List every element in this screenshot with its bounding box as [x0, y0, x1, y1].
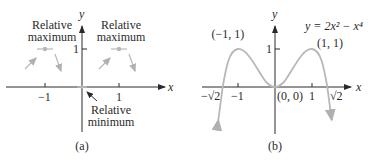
caption-b: (b)	[268, 139, 282, 153]
panel-b: x y −√2 −1 1 √2 1 (−1, 1) (1, 1) (0, 0) …	[201, 7, 363, 153]
figure: x y −1 1 1 Relative maximu	[0, 0, 371, 164]
y-tick-label-1: 1	[73, 42, 79, 56]
x-tick-label-neg1: −1	[231, 89, 244, 103]
y-axis-label: y	[271, 7, 278, 21]
x-tick-label-1: 1	[116, 90, 122, 104]
y-axis-label: y	[78, 7, 85, 21]
x-tick-label-neg1: −1	[38, 90, 51, 104]
point-label-origin: (0, 0)	[277, 89, 303, 103]
min-marker	[77, 85, 97, 101]
point-label-left-max: (−1, 1)	[212, 27, 245, 41]
x-axis-label: x	[167, 80, 174, 94]
annotation-left-max-line2: maximum	[28, 30, 77, 44]
left-max-marker	[25, 47, 61, 71]
annotation-right-max-line2: maximum	[97, 30, 146, 44]
right-max-marker	[99, 47, 135, 71]
annotation-min-line2: minimum	[88, 115, 135, 129]
x-axis-label: x	[355, 80, 362, 94]
x-tick-label-1: 1	[309, 89, 315, 103]
panel-a: x y −1 1 1 Relative maximu	[6, 7, 174, 153]
caption-a: (a)	[75, 139, 88, 153]
x-tick-label-neg-sqrt2: −√2	[201, 89, 220, 103]
y-tick-label-1: 1	[266, 42, 272, 56]
equation-label: y = 2x² − x⁴	[304, 19, 363, 33]
x-tick-label-sqrt2: √2	[330, 89, 343, 103]
point-label-right-max: (1, 1)	[317, 36, 343, 50]
